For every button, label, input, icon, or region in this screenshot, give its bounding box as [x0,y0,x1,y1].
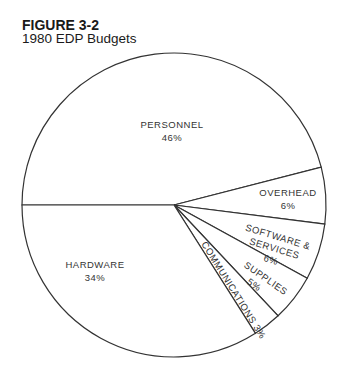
label-overhead-pct: 6% [281,200,296,211]
label-personnel: PERSONNEL [140,119,203,130]
label-personnel-pct: 46% [162,132,183,143]
label-hardware: HARDWARE [65,259,124,270]
pie-chart: PERSONNEL 46% OVERHEAD 6% SOFTWARE & SER… [0,0,340,376]
label-overhead: OVERHEAD [259,187,316,198]
label-hardware-pct: 34% [85,272,106,283]
figure: FIGURE 3-2 1980 EDP Budgets PERSONNEL 46… [0,0,340,376]
